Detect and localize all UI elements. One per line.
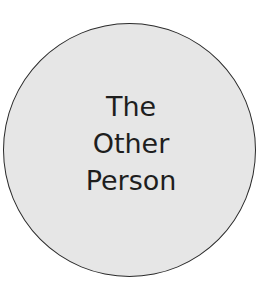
circle-label: The Other Person [3,88,259,199]
label-line-2: Other [3,125,259,162]
label-line-3: Person [3,162,259,199]
label-line-1: The [3,88,259,125]
